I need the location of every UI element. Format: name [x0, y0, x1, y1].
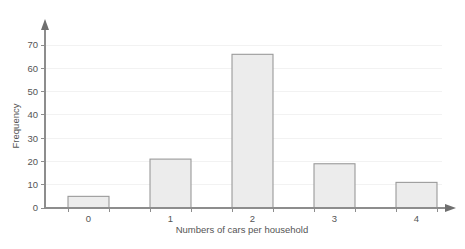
- x-tick-label: 2: [250, 213, 255, 224]
- x-axis-title: Numbers of cars per household: [176, 224, 309, 235]
- y-tick-label: 60: [27, 63, 38, 74]
- bar-3: [314, 164, 355, 208]
- bar-chart-figure: 010203040506070 01234 Numbers of cars pe…: [0, 0, 465, 249]
- y-axis-arrow-icon: [41, 19, 49, 30]
- x-tick-label: 4: [414, 213, 419, 224]
- y-axis-title: Frequency: [10, 103, 21, 148]
- x-tick-label: 3: [332, 213, 337, 224]
- x-tick-label: 1: [168, 213, 173, 224]
- bar-4: [396, 182, 437, 208]
- bar-0: [68, 196, 109, 208]
- chart-canvas: 010203040506070 01234 Numbers of cars pe…: [0, 0, 465, 249]
- y-tick-label: 50: [27, 86, 38, 97]
- bar-1: [150, 159, 191, 208]
- y-tick-label: 20: [27, 156, 38, 167]
- y-tick-label: 10: [27, 179, 38, 190]
- bar-2: [232, 54, 273, 208]
- y-tick-label: 70: [27, 39, 38, 50]
- x-tick-label: 0: [86, 213, 91, 224]
- y-tick-label: 30: [27, 133, 38, 144]
- y-tick-label: 40: [27, 109, 38, 120]
- x-axis-ticks: 01234: [68, 208, 437, 224]
- y-tick-label: 0: [33, 202, 38, 213]
- y-axis-ticks: 010203040506070: [27, 39, 45, 213]
- x-axis-arrow-icon: [445, 204, 456, 212]
